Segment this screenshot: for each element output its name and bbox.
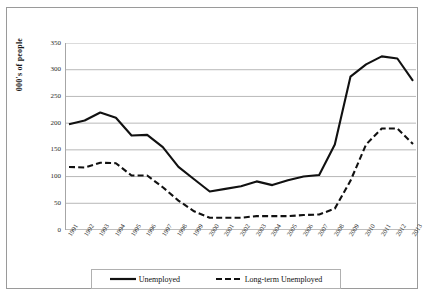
legend-item-unemployed: Unemployed (110, 275, 180, 284)
y-axis-tick-label: 300 (37, 66, 61, 73)
y-axis-tick-labels: 350300250200150100500 (37, 43, 61, 230)
y-axis-tick-label: 100 (37, 173, 61, 180)
y-axis-title: 000's of people (15, 15, 24, 115)
y-axis-tick-label: 200 (37, 120, 61, 127)
y-axis-tick-label: 0 (37, 227, 61, 234)
chart-legend: Unemployed Long-term Unemployed (91, 269, 341, 289)
y-axis-tick-label: 250 (37, 93, 61, 100)
series-line-unemployed (69, 56, 413, 191)
series-lines (69, 56, 413, 217)
x-axis-tick-labels: 1991199219931994199519961997199819992000… (65, 231, 415, 269)
legend-swatch-dashed-line-icon (216, 275, 242, 283)
y-axis-tick-label: 50 (37, 200, 61, 207)
y-axis-tick-label: 150 (37, 146, 61, 153)
legend-label-long-term-unemployed: Long-term Unemployed (245, 275, 323, 284)
series-line-long-term-unemployed (69, 128, 413, 217)
plot-svg (66, 43, 416, 230)
chart-screenshot: 000's of people 350300250200150100500 19… (0, 0, 427, 299)
legend-swatch-solid-line-icon (110, 275, 136, 283)
gridlines (66, 43, 416, 230)
plot-area (65, 43, 415, 230)
y-axis-tick-label: 350 (37, 40, 61, 47)
chart-outer-frame: 000's of people 350300250200150100500 19… (6, 7, 418, 289)
legend-label-unemployed: Unemployed (139, 275, 180, 284)
legend-item-long-term-unemployed: Long-term Unemployed (216, 275, 323, 284)
